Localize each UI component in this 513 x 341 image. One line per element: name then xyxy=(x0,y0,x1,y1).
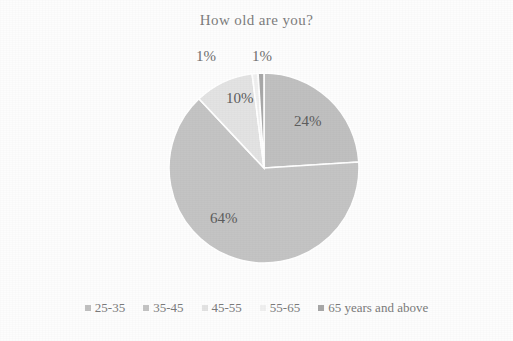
pie-slice-group xyxy=(169,73,359,263)
legend-swatch-icon xyxy=(143,305,149,311)
chart-legend: 25-3535-4545-5555-6565 years and above xyxy=(0,300,513,316)
legend-item-45-55[interactable]: 45-55 xyxy=(202,300,242,316)
chart-title: How old are you? xyxy=(0,12,513,29)
legend-swatch-icon xyxy=(318,305,324,311)
slice-label-35-45: 64% xyxy=(210,210,238,227)
pie-chart-figure: How old are you? 1% 1% 10% 24% 64% 25-35… xyxy=(0,0,513,341)
slice-label-45-55: 10% xyxy=(226,90,254,107)
legend-swatch-icon xyxy=(260,305,266,311)
legend-swatch-icon xyxy=(202,305,208,311)
slice-label-55-65: 1% xyxy=(196,48,216,65)
pie-chart-plot-area xyxy=(168,72,360,264)
legend-item-label: 55-65 xyxy=(270,300,300,316)
legend-item-label: 25-35 xyxy=(95,300,125,316)
legend-item-label: 35-45 xyxy=(153,300,183,316)
legend-item-55-65[interactable]: 55-65 xyxy=(260,300,300,316)
legend-item-25-35[interactable]: 25-35 xyxy=(85,300,125,316)
pie-svg xyxy=(168,72,360,264)
legend-item-65-years-and-above[interactable]: 65 years and above xyxy=(318,300,428,316)
slice-label-65-and-above: 1% xyxy=(252,48,272,65)
legend-item-label: 45-55 xyxy=(212,300,242,316)
legend-swatch-icon xyxy=(85,305,91,311)
slice-label-25-35: 24% xyxy=(294,113,322,130)
legend-item-35-45[interactable]: 35-45 xyxy=(143,300,183,316)
legend-item-label: 65 years and above xyxy=(328,300,428,316)
